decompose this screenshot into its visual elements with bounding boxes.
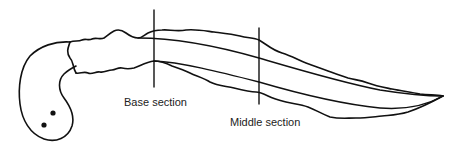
bulb-outline xyxy=(19,42,76,140)
base-section-label: Base section xyxy=(124,97,187,108)
dot-marker-upper xyxy=(50,110,55,115)
dot-marker-lower xyxy=(41,122,46,127)
diagram-canvas: Base section Middle section xyxy=(0,0,462,149)
middle-section-label: Middle section xyxy=(230,117,300,128)
upper-edge-base xyxy=(70,30,443,96)
inner-upper-line xyxy=(138,38,443,96)
inner-lower-line xyxy=(154,61,443,109)
